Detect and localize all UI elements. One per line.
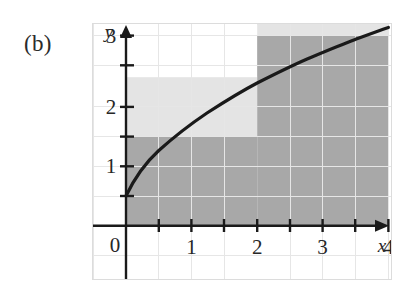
- y-tick-label-1: 1: [106, 154, 117, 178]
- plot-svg: 0 1 2 3 4 1 2 3 y x: [93, 24, 391, 279]
- figure-container: (b): [0, 0, 411, 301]
- x-tick-label-2: 2: [252, 235, 263, 259]
- x-tick-label-3: 3: [317, 235, 328, 259]
- x-tick-label-1: 1: [186, 235, 197, 259]
- plot-frame: 0 1 2 3 4 1 2 3 y x: [92, 23, 392, 280]
- part-label: (b): [24, 32, 52, 55]
- x-axis-label: x: [377, 235, 387, 256]
- y-tick-label-2: 2: [106, 95, 117, 119]
- y-axis-label: y: [103, 24, 114, 42]
- x-tick-label-0: 0: [110, 233, 121, 257]
